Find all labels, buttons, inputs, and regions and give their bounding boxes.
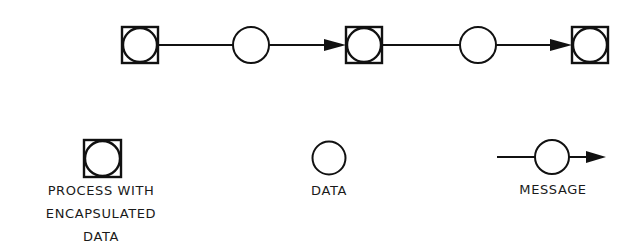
legend: PROCESS WITH ENCAPSULATED DATA DATA MESS… [46, 140, 606, 244]
flow-row [122, 27, 608, 63]
arrowhead-icon [324, 39, 346, 51]
data-node-2 [460, 27, 496, 63]
legend-process-label-line3: DATA [83, 229, 119, 244]
legend-message: MESSAGE [497, 140, 606, 197]
legend-data: DATA [311, 142, 347, 199]
process-node-1 [122, 27, 158, 63]
data-node-1 [233, 27, 269, 63]
legend-data-label: DATA [311, 183, 347, 198]
encapsulation-diagram: PROCESS WITH ENCAPSULATED DATA DATA MESS… [0, 0, 637, 252]
process-node-3 [572, 27, 608, 63]
data-symbol-icon [313, 142, 346, 175]
process-symbol-icon [84, 140, 121, 177]
legend-process: PROCESS WITH ENCAPSULATED DATA [46, 140, 156, 244]
edge-data1-to-process2 [269, 39, 346, 51]
edge-data2-to-process3 [496, 39, 572, 51]
legend-message-label: MESSAGE [519, 182, 586, 197]
legend-process-label-line1: PROCESS WITH [48, 183, 155, 198]
legend-process-label-line2: ENCAPSULATED [46, 206, 156, 221]
process-node-2 [346, 27, 382, 63]
arrowhead-icon [550, 39, 572, 51]
message-symbol-icon [497, 140, 606, 174]
